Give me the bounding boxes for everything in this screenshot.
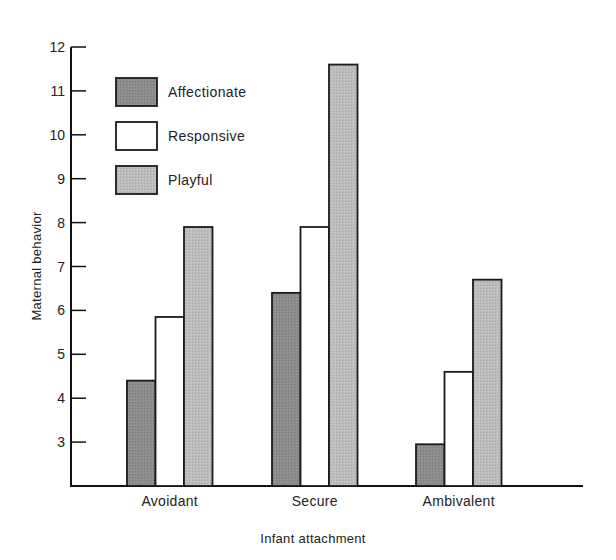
y-tick-label: 3 [57,434,65,450]
category-labels: AvoidantSecureAmbivalent [141,493,494,509]
y-tick-label: 4 [57,390,65,406]
y-tick-label: 12 [49,39,65,55]
y-axis: 3456789101112 [49,39,86,487]
bar-group-ambivalent [416,280,502,486]
y-tick-label: 7 [57,259,65,275]
y-tick-label: 5 [57,346,65,362]
legend-label: Responsive [168,128,245,144]
legend: AffectionateResponsivePlayful [116,78,247,194]
category-label: Ambivalent [423,493,495,509]
legend-label: Playful [168,172,213,188]
legend-item-responsive: Responsive [116,122,245,150]
y-tick-label: 6 [57,302,65,318]
bar-avoidant-affectionate [127,381,156,486]
bar-avoidant-playful [184,227,213,486]
x-axis-title: Infant attachment [260,531,366,546]
bar-ambivalent-responsive [445,372,474,486]
bar-ambivalent-playful [473,280,502,486]
y-tick-label: 9 [57,171,65,187]
legend-label: Affectionate [168,84,247,100]
category-label: Avoidant [141,493,198,509]
legend-item-affectionate: Affectionate [116,78,247,106]
bar-secure-playful [329,65,358,486]
y-axis-title: Maternal behavior [29,211,44,321]
legend-swatch [116,122,157,150]
bar-group-avoidant [127,227,213,486]
y-tick-label: 11 [50,83,65,99]
legend-swatch [116,78,157,106]
bar-avoidant-responsive [156,317,185,486]
bar-ambivalent-affectionate [416,444,445,486]
legend-item-playful: Playful [116,166,213,194]
bar-secure-responsive [301,227,330,486]
y-tick-label: 10 [49,127,65,143]
legend-swatch [116,166,157,194]
y-tick-label: 8 [57,215,65,231]
bar-secure-affectionate [272,293,301,486]
bar-group-secure [272,65,358,486]
category-label: Secure [292,493,338,509]
bar-chart: 3456789101112 AvoidantSecureAmbivalent A… [0,0,616,560]
